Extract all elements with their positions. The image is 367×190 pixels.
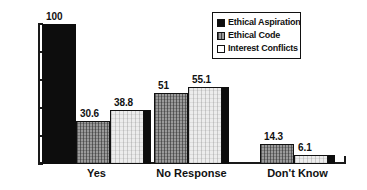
bar-value-label: 38.8 [114,98,133,108]
legend-swatch-icon-interest-conflicts [217,45,225,53]
bar [42,24,76,164]
x-axis-category-label: No Response [134,168,249,179]
legend-swatch-icon-ethical-aspiration [217,19,225,27]
chart-legend: Ethical Aspiration Ethical Code Interest… [212,12,301,59]
bar [76,121,110,164]
bar-group-shadow [144,110,151,164]
legend-swatch-icon-ethical-code [217,32,225,40]
bar [260,144,294,164]
bar [294,155,328,164]
bar [110,110,144,164]
bar-chart: 020406080100 10030.638.85155.114.36.1 Ye… [0,0,367,190]
bar-group-shadow [328,155,335,164]
legend-item-interest-conflicts: Interest Conflicts [217,42,296,55]
bar-value-label: 6.1 [298,143,312,153]
bar-group-shadow [222,87,229,164]
legend-label-interest-conflicts: Interest Conflicts [228,44,298,53]
legend-label-ethical-code: Ethical Code [228,31,280,40]
bar-value-label: 14.3 [264,132,283,142]
bar-value-label: 30.6 [80,109,99,119]
bar-value-label: 55.1 [192,75,211,85]
x-axis-category-label: Don't Know [240,168,355,179]
legend-label-ethical-aspiration: Ethical Aspiration [228,18,301,27]
legend-item-ethical-aspiration: Ethical Aspiration [217,16,296,29]
bar [154,93,188,164]
legend-item-ethical-code: Ethical Code [217,29,296,42]
bar-value-label: 51 [158,81,169,91]
bar [188,87,222,164]
bar-value-label: 100 [46,12,62,22]
